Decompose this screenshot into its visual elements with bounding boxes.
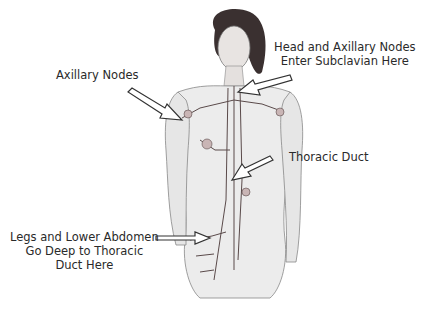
label-head-axillary-subclavian: Head and Axillary Nodes Enter Subclavian… [274, 40, 416, 68]
head [218, 26, 250, 70]
label-thoracic-duct: Thoracic Duct [289, 150, 369, 164]
label-axillary-nodes: Axillary Nodes [56, 68, 139, 82]
label-legs-lower-abdomen: Legs and Lower Abdomen Go Deep to Thorac… [10, 230, 159, 272]
